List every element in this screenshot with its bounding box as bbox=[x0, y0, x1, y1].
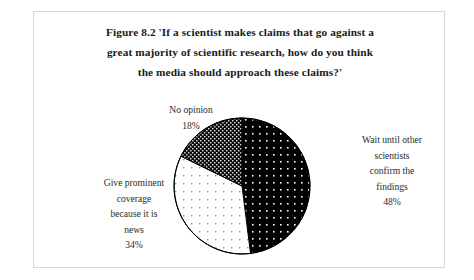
pie-label-wait-until-line-3: confirm the bbox=[331, 163, 453, 179]
pie-label-wait-until: Wait until other scientists confirm the … bbox=[331, 132, 453, 210]
pie-chart-area: No opinion 18% Give prominent coverage b… bbox=[34, 12, 444, 267]
pie-slice-wait-until bbox=[242, 118, 310, 253]
pie-label-give-prominent-line-3: because it is bbox=[75, 206, 193, 222]
pie-label-no-opinion: No opinion 18% bbox=[139, 102, 243, 133]
pie-chart bbox=[172, 116, 312, 256]
pie-label-give-prominent: Give prominent coverage because it is ne… bbox=[75, 175, 193, 253]
pie-label-wait-until-line-1: Wait until other bbox=[331, 132, 453, 148]
figure-frame: Figure 8.2 'If a scientist makes claims … bbox=[33, 11, 445, 268]
pie-label-wait-until-percent: 48% bbox=[331, 194, 453, 210]
pie-label-give-prominent-line-4: news bbox=[75, 222, 193, 238]
pie-label-no-opinion-percent: 18% bbox=[139, 118, 243, 134]
pie-label-no-opinion-text: No opinion bbox=[139, 102, 243, 118]
pie-label-wait-until-line-4: findings bbox=[331, 179, 453, 195]
pie-label-give-prominent-percent: 34% bbox=[75, 237, 193, 253]
pie-label-wait-until-line-2: scientists bbox=[331, 148, 453, 164]
pie-label-give-prominent-line-1: Give prominent bbox=[75, 175, 193, 191]
pie-label-give-prominent-line-2: coverage bbox=[75, 191, 193, 207]
